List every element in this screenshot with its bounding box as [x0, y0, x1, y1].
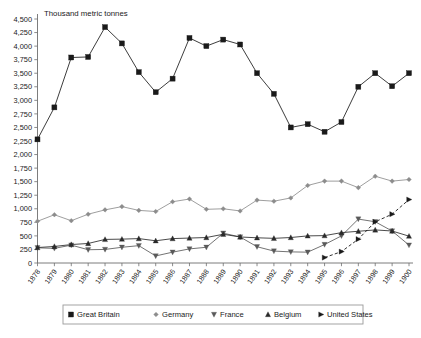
data-point-square [103, 25, 108, 30]
x-axis-tick-label: 1881 [76, 267, 93, 285]
x-axis-tick-label: 1885 [144, 267, 161, 285]
legend-marker-square-icon [69, 312, 74, 317]
x-axis-tick-label: 1883 [110, 267, 127, 285]
legend-label: United States [327, 310, 373, 319]
x-axis-tick-label: 1893 [279, 267, 296, 285]
data-point-triangle-down [406, 243, 411, 248]
x-axis-tick-label: 1896 [330, 267, 347, 285]
data-point-diamond [322, 179, 327, 184]
y-axis-tick-label: 1,750 [14, 164, 33, 173]
data-point-diamond [120, 204, 125, 209]
data-point-diamond [69, 218, 74, 223]
x-axis-tick-label: 1882 [93, 267, 110, 285]
line-chart: 02505007501,0001,2501,5001,7502,0002,250… [0, 0, 421, 338]
data-point-square [35, 137, 40, 142]
data-point-diamond [86, 212, 91, 217]
x-axis-tick-label: 1879 [42, 267, 59, 285]
series-polyline [38, 27, 410, 139]
y-axis-tick-label: 1,250 [14, 191, 33, 200]
data-point-square [271, 91, 276, 96]
data-point-square [390, 84, 395, 89]
data-point-square [373, 71, 378, 76]
data-point-diamond [204, 207, 209, 212]
x-axis-tick-label: 1886 [161, 267, 178, 285]
x-axis-tick-label: 1894 [296, 267, 313, 285]
data-point-square [305, 122, 310, 127]
data-point-diamond [52, 212, 57, 217]
chart-title: Thousand metric tonnes [44, 9, 128, 18]
y-axis-tick-label: 3,000 [14, 96, 33, 105]
y-axis-tick-label: 2,000 [14, 150, 33, 159]
y-axis-tick-label: 0 [28, 259, 32, 268]
data-point-square [86, 54, 91, 59]
x-axis-tick-label: 1880 [59, 267, 76, 285]
data-point-square [255, 71, 260, 76]
x-axis-tick-group [38, 263, 410, 266]
data-point-square [322, 129, 327, 134]
legend-item-great-britain[interactable]: Great Britain [69, 310, 120, 319]
series-united-states [322, 197, 412, 260]
y-axis-tick-label: 2,250 [14, 137, 33, 146]
series-belgium [35, 227, 412, 250]
data-point-diamond [103, 208, 108, 213]
data-point-square [288, 125, 293, 130]
data-point-square [407, 71, 412, 76]
y-axis-tick-label: 3,250 [14, 82, 33, 91]
y-axis-tick-label: 4,000 [14, 42, 33, 51]
x-axis-tick-label: 1884 [127, 267, 144, 285]
data-point-triangle-right [407, 197, 412, 202]
chart-container: 02505007501,0001,2501,5001,7502,0002,250… [0, 0, 421, 338]
data-point-square [52, 105, 57, 110]
data-point-triangle-down [153, 254, 158, 259]
x-axis-tick-label: 1892 [262, 267, 279, 285]
data-point-diamond [35, 219, 40, 224]
data-point-square [356, 84, 361, 89]
x-axis-tick-label: 1898 [363, 267, 380, 285]
data-point-square [204, 44, 209, 49]
data-point-diamond [373, 174, 378, 179]
data-point-diamond [170, 199, 175, 204]
y-axis-tick-label: 3,500 [14, 69, 33, 78]
x-axis-tick-label: 1889 [211, 267, 228, 285]
data-point-triangle-down [322, 242, 327, 247]
data-point-square [187, 35, 192, 40]
y-axis-tick-label: 2,500 [14, 123, 33, 132]
series-group [35, 25, 412, 261]
y-axis-tick-label: 1,500 [14, 177, 33, 186]
x-axis-tick-label: 1897 [346, 267, 363, 285]
x-axis-tick-label: 1895 [313, 267, 330, 285]
y-axis-tick-label: 3,750 [14, 55, 33, 64]
data-point-diamond [221, 206, 226, 211]
series-polyline [38, 219, 410, 256]
x-axis-tick-label: 1899 [380, 267, 397, 285]
data-point-square [221, 37, 226, 42]
x-axis-tick-label: 1891 [245, 267, 262, 285]
data-point-square [119, 41, 124, 46]
data-point-square [339, 120, 344, 125]
data-point-diamond [187, 197, 192, 202]
data-point-square [238, 42, 243, 47]
x-axis-tick-label: 1878 [26, 267, 43, 285]
chart-legend: Great BritainGermanyFranceBelgiumUnited … [63, 305, 373, 324]
y-axis-tick-label: 1,000 [14, 204, 33, 213]
data-point-diamond [137, 208, 142, 213]
y-axis-tick-label: 4,500 [14, 15, 33, 24]
data-point-square [69, 55, 74, 60]
data-point-diamond [153, 209, 158, 214]
legend-item-united-states[interactable]: United States [319, 310, 373, 319]
y-axis-tick-label: 2,750 [14, 110, 33, 119]
x-axis-tick-label: 1890 [228, 267, 245, 285]
data-point-triangle-right [339, 249, 344, 254]
data-point-square [136, 70, 141, 75]
data-point-triangle-right [356, 237, 361, 242]
legend-label: Germany [162, 310, 193, 319]
y-axis-tick-label: 4,250 [14, 28, 33, 37]
data-point-square [170, 76, 175, 81]
legend-label: Belgium [274, 310, 301, 319]
series-france [35, 217, 412, 259]
data-point-diamond [339, 179, 344, 184]
series-germany [35, 174, 411, 224]
series-polyline [38, 176, 410, 221]
series-polyline [325, 200, 409, 258]
x-axis-label-group: 1878187918801881188218831884188518861887… [26, 267, 414, 285]
